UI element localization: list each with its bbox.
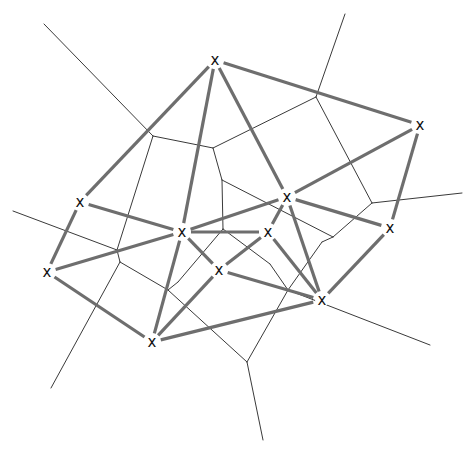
delaunay-edge-E-K [154, 241, 179, 334]
x-mark-icon: x [148, 333, 157, 351]
site-marker-B: x [413, 116, 427, 134]
x-mark-icon: x [211, 51, 220, 69]
voronoi-edge [222, 180, 333, 237]
x-mark-icon: x [386, 219, 395, 237]
voronoi-edge [372, 193, 462, 203]
voronoi-edge [153, 136, 213, 148]
delaunay-edge-E-I [188, 238, 212, 263]
site-marker-E: x [175, 223, 189, 241]
delaunay-edge-C-H [51, 210, 76, 264]
voronoi-edge [322, 237, 333, 242]
x-mark-icon: x [264, 223, 273, 241]
site-marker-G: x [383, 219, 397, 237]
delaunay-edge-I-J [228, 273, 314, 298]
x-mark-icon: x [318, 291, 327, 309]
site-marker-C: x [73, 193, 87, 211]
x-mark-icon: x [43, 263, 52, 281]
delaunay-edge-H-K [54, 277, 144, 337]
voronoi-edge [213, 148, 222, 180]
delaunay-edge-C-E [89, 205, 174, 230]
x-mark-icon: x [416, 116, 425, 134]
x-mark-icon: x [215, 261, 224, 279]
delaunay-edge-B-D [295, 129, 412, 192]
delaunay-edge-A-E [184, 69, 214, 223]
voronoi-edge [213, 97, 316, 148]
delaunay-edge-E-H [56, 235, 174, 270]
voronoi-edge [288, 290, 430, 345]
delaunay-edge-D-G [296, 200, 382, 226]
voronoi-delaunay-diagram: xxxxxxxxxxx [0, 0, 472, 451]
x-mark-icon: x [283, 188, 292, 206]
voronoi-edge [222, 180, 223, 229]
voronoi-edge [316, 97, 372, 203]
voronoi-edge [120, 262, 168, 290]
voronoi-edge [168, 290, 247, 362]
x-mark-icon: x [178, 223, 187, 241]
delaunay-edges [51, 63, 418, 340]
voronoi-edge [247, 362, 263, 440]
site-marker-F: x [261, 223, 275, 241]
voronoi-edge [316, 14, 345, 97]
site-marker-A: x [208, 51, 222, 69]
delaunay-edge-A-B [224, 63, 412, 123]
x-mark-icon: x [76, 193, 85, 211]
site-marker-H: x [40, 263, 54, 281]
site-marker-D: x [280, 188, 294, 206]
delaunay-edge-F-I [226, 238, 261, 265]
site-marker-I: x [212, 261, 226, 279]
delaunay-edge-B-G [393, 134, 418, 220]
delaunay-edge-A-D [219, 68, 283, 189]
delaunay-edge-D-F [272, 205, 282, 224]
voronoi-edge [44, 24, 153, 136]
voronoi-edge [117, 136, 153, 250]
voronoi-edge [247, 290, 288, 362]
delaunay-edge-G-J [328, 235, 384, 294]
site-marker-K: x [145, 333, 159, 351]
site-marker-J: x [315, 291, 329, 309]
